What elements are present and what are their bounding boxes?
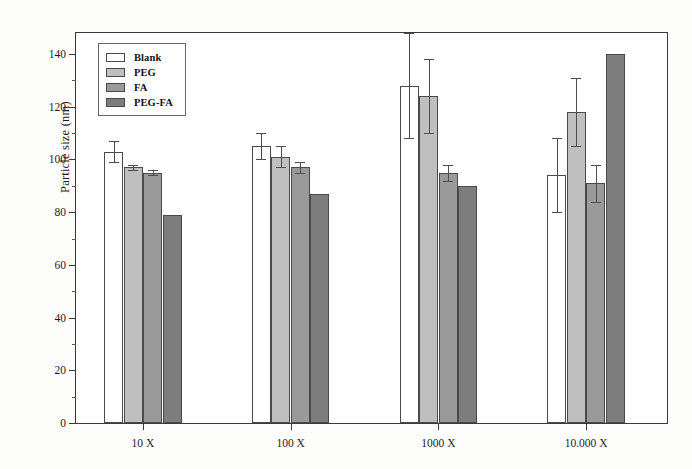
y-axis-tick <box>69 423 76 424</box>
legend-item-peg-fa: PEG-FA <box>106 95 173 109</box>
error-bar-cap-upper <box>404 33 414 34</box>
y-axis-minor-tick <box>72 344 76 345</box>
x-axis-tick <box>438 423 439 430</box>
y-axis-minor-tick <box>72 80 76 81</box>
error-bar-cap-lower <box>424 133 434 134</box>
x-axis-tick-label: 10.000 X <box>565 437 608 449</box>
error-bar-cap-lower <box>128 170 138 171</box>
x-axis-tick <box>291 423 292 430</box>
legend-item-label: PEG-FA <box>134 97 173 108</box>
y-axis-tick <box>69 370 76 371</box>
y-axis-tick <box>69 159 76 160</box>
bar-peg-fa-2 <box>458 186 477 423</box>
y-axis-tick <box>69 265 76 266</box>
legend-swatch-icon <box>106 83 125 92</box>
error-bar-line <box>596 165 597 202</box>
y-axis-minor-tick <box>72 186 76 187</box>
error-bar-line <box>261 133 262 159</box>
error-bar-cap-upper <box>295 162 305 163</box>
legend-swatch-icon <box>106 53 125 62</box>
legend-item-label: PEG <box>134 67 156 78</box>
y-axis-tick-label: 40 <box>55 312 67 324</box>
bar-peg-3 <box>567 112 586 423</box>
error-bar-cap-upper <box>276 146 286 147</box>
y-axis-tick-label: 120 <box>49 101 66 113</box>
y-axis-tick <box>69 54 76 55</box>
error-bar-cap-upper <box>256 133 266 134</box>
error-bar-cap-lower <box>571 146 581 147</box>
x-axis-tick-label: 10 X <box>132 437 155 449</box>
error-bar-cap-lower <box>276 167 286 168</box>
bar-fa-3 <box>586 183 605 423</box>
error-bar-cap-lower <box>295 173 305 174</box>
y-axis-minor-tick <box>72 291 76 292</box>
error-bar-cap-lower <box>404 138 414 139</box>
error-bar-line <box>557 138 558 212</box>
y-axis-tick-label: 20 <box>55 364 67 376</box>
x-axis-tick-label: 1000 X <box>421 437 455 449</box>
error-bar-line <box>409 33 410 138</box>
y-axis-tick-label: 60 <box>55 259 67 271</box>
error-bar-cap-upper <box>109 141 119 142</box>
legend-item-fa: FA <box>106 80 173 94</box>
error-bar-line <box>114 141 115 162</box>
bar-peg-0 <box>124 167 143 423</box>
bar-blank-0 <box>104 152 123 423</box>
legend-swatch-icon <box>106 98 125 107</box>
y-axis-tick-label: 140 <box>49 48 66 60</box>
y-axis-tick-label: 80 <box>55 206 67 218</box>
error-bar-cap-lower <box>591 202 601 203</box>
bar-peg-1 <box>271 157 290 423</box>
error-bar-cap-upper <box>148 170 158 171</box>
error-bar-cap-upper <box>424 59 434 60</box>
x-axis-tick-label: 100 X <box>276 437 304 449</box>
plot-frame: Particle size (nm) 02040608010012014010 … <box>75 32 668 424</box>
y-axis-minor-tick <box>72 397 76 398</box>
y-axis-minor-tick <box>72 133 76 134</box>
particle-size-bar-chart: Particle size (nm) 02040608010012014010 … <box>0 0 692 469</box>
bar-peg-fa-0 <box>163 215 182 423</box>
error-bar-cap-upper <box>128 165 138 166</box>
bar-fa-1 <box>291 167 310 423</box>
error-bar-line <box>281 146 282 167</box>
y-axis-tick <box>69 107 76 108</box>
y-axis-tick <box>69 318 76 319</box>
x-axis-tick <box>586 423 587 430</box>
legend-item-label: FA <box>134 82 147 93</box>
chart-legend: BlankPEGFAPEG-FA <box>98 43 186 116</box>
y-axis-tick-label: 100 <box>49 153 66 165</box>
error-bar-cap-lower <box>109 162 119 163</box>
error-bar-line <box>576 78 577 147</box>
error-bar-line <box>429 59 430 133</box>
bar-peg-fa-3 <box>606 54 625 423</box>
bar-fa-0 <box>143 173 162 423</box>
error-bar-cap-lower <box>148 175 158 176</box>
error-bar-line <box>448 165 449 181</box>
legend-item-peg: PEG <box>106 65 173 79</box>
error-bar-cap-upper <box>443 165 453 166</box>
error-bar-line <box>300 162 301 173</box>
legend-swatch-icon <box>106 68 125 77</box>
error-bar-cap-upper <box>552 138 562 139</box>
bar-peg-2 <box>419 96 438 423</box>
error-bar-cap-lower <box>552 212 562 213</box>
bar-blank-1 <box>252 146 271 423</box>
bar-peg-fa-1 <box>310 194 329 423</box>
error-bar-cap-upper <box>571 78 581 79</box>
y-axis-tick <box>69 212 76 213</box>
error-bar-cap-upper <box>591 165 601 166</box>
y-axis-tick-label: 0 <box>60 417 66 429</box>
bar-fa-2 <box>439 173 458 423</box>
legend-item-blank: Blank <box>106 50 173 64</box>
y-axis-minor-tick <box>72 239 76 240</box>
x-axis-tick <box>143 423 144 430</box>
error-bar-cap-lower <box>443 181 453 182</box>
legend-item-label: Blank <box>134 52 161 63</box>
error-bar-cap-lower <box>256 159 266 160</box>
